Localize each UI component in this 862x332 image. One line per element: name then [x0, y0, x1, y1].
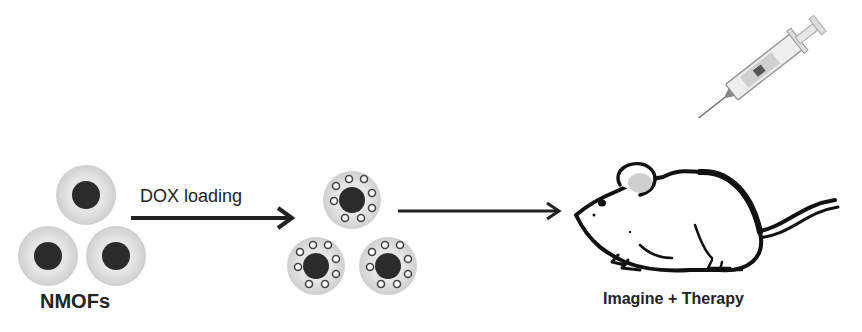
nmofs-label: NMOFs — [40, 290, 110, 313]
dox-loaded-particles-icon — [287, 171, 417, 295]
diagram-canvas: NMOFs DOX loading Imagine + Therapy — [0, 0, 862, 332]
arrow-to-mouse-icon — [398, 203, 559, 219]
arrow-dox-loading-icon — [131, 208, 292, 228]
dox-loading-label: DOX loading — [140, 186, 242, 207]
nmof-particles-icon — [18, 165, 146, 286]
imaging-therapy-label: Imagine + Therapy — [603, 290, 744, 308]
mouse-icon — [576, 164, 838, 271]
diagram-graphics — [0, 0, 862, 332]
syringe-icon — [690, 12, 829, 129]
